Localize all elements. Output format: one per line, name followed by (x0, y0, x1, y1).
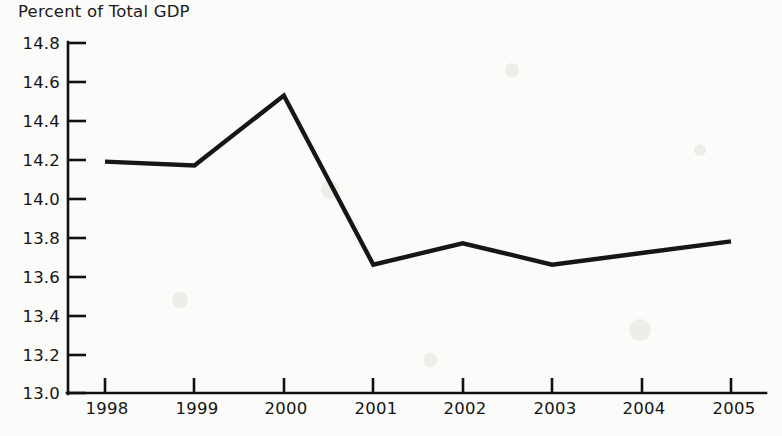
y-tick-label: 13.8 (22, 229, 60, 248)
y-tick-label: 13.0 (22, 384, 60, 403)
y-tick-label: 14.0 (22, 190, 60, 209)
y-tick-label: 13.6 (22, 268, 60, 287)
y-tick-label: 14.8 (22, 34, 60, 53)
x-tick-labels: 1998 1999 2000 2001 2002 2003 2004 2005 (86, 399, 756, 418)
y-tick-marks (68, 43, 86, 393)
x-tick-label: 2004 (623, 399, 666, 418)
y-tick-label: 14.2 (22, 151, 60, 170)
x-tick-label: 2003 (534, 399, 577, 418)
x-tick-label: 2001 (355, 399, 398, 418)
y-tick-label: 13.4 (22, 307, 60, 326)
data-series-line (105, 96, 731, 265)
y-tick-labels: 14.8 14.6 14.4 14.2 14.0 13.8 13.6 13.4 … (22, 34, 60, 403)
paper-texture (172, 63, 706, 367)
line-chart-canvas: 14.8 14.6 14.4 14.2 14.0 13.8 13.6 13.4 … (0, 0, 782, 436)
x-tick-label: 2002 (444, 399, 487, 418)
y-tick-label: 14.4 (22, 112, 60, 131)
x-tick-marks (105, 378, 731, 393)
y-tick-label: 14.6 (22, 73, 60, 92)
x-tick-label: 1998 (86, 399, 129, 418)
chart-figure: Percent of Total GDP (0, 0, 782, 436)
y-tick-label: 13.2 (22, 346, 60, 365)
x-tick-label: 1999 (176, 399, 219, 418)
x-tick-label: 2000 (265, 399, 308, 418)
x-tick-label: 2005 (713, 399, 756, 418)
